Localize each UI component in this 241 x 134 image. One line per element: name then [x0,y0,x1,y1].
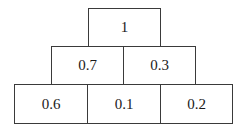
pyramid-cell-middle-left: 0.7 [51,46,124,85]
pyramid-cell-bottom-middle: 0.1 [87,84,161,124]
pyramid-cell-bottom-left: 0.6 [14,84,88,124]
cell-value: 0.3 [150,57,169,74]
pyramid-cell-top: 1 [88,8,161,47]
cell-value: 0.2 [187,96,206,113]
cell-value: 0.1 [115,96,134,113]
cell-value: 0.6 [42,96,61,113]
cell-value: 1 [121,19,129,36]
cell-value: 0.7 [78,57,97,74]
pyramid-cell-middle-right: 0.3 [123,46,196,85]
pyramid-cell-bottom-right: 0.2 [160,84,233,124]
